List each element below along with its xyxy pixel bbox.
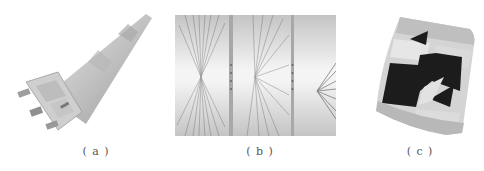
panel-b-streaks bbox=[175, 15, 336, 136]
patterned-surface bbox=[370, 5, 480, 140]
caption-b: ( b ) bbox=[230, 145, 290, 158]
caption-c: ( c ) bbox=[390, 145, 450, 158]
streak-sequence bbox=[175, 15, 336, 136]
panel-a-rocket bbox=[0, 0, 170, 140]
rocket-illustration bbox=[0, 0, 170, 140]
caption-a: ( a ) bbox=[66, 145, 126, 158]
panel-c-surface bbox=[370, 5, 480, 140]
